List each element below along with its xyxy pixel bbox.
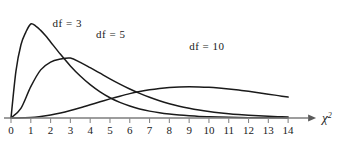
x-tick-label-3: 3 (68, 124, 74, 136)
x-tick-label-14: 14 (283, 124, 295, 136)
curve-df-5 (11, 58, 288, 118)
x-axis-label: χ2 (320, 110, 332, 125)
x-axis-ticks (11, 118, 288, 123)
x-tick-label-13: 13 (263, 124, 275, 136)
x-tick-label-8: 8 (167, 124, 173, 136)
curve-df-10 (11, 87, 288, 118)
chart-plot-area: 01234567891011121314 df = 3df = 5df = 10… (0, 0, 342, 147)
x-tick-label-10: 10 (203, 124, 215, 136)
x-tick-label-7: 7 (147, 124, 153, 136)
annotation-df-3: df = 3 (53, 17, 82, 29)
x-tick-label-4: 4 (87, 124, 93, 136)
x-tick-label-2: 2 (48, 124, 54, 136)
x-tick-label-5: 5 (107, 124, 113, 136)
annotation-df-5: df = 5 (96, 28, 125, 40)
x-axis-tick-labels: 01234567891011121314 (8, 124, 294, 136)
x-tick-label-11: 11 (223, 124, 234, 136)
x-tick-label-9: 9 (186, 124, 192, 136)
chi-square-distribution-chart: 01234567891011121314 df = 3df = 5df = 10… (0, 0, 342, 147)
curve-df-3 (11, 24, 288, 118)
x-tick-label-6: 6 (127, 124, 133, 136)
x-tick-label-1: 1 (28, 124, 34, 136)
annotation-df-10: df = 10 (189, 40, 224, 52)
x-axis-label-text: χ2 (320, 110, 332, 125)
x-tick-label-12: 12 (243, 124, 254, 136)
x-tick-label-0: 0 (8, 124, 14, 136)
axis-arrow-icon (308, 115, 316, 122)
curves-layer (11, 24, 288, 118)
series-annotations: df = 3df = 5df = 10 (53, 17, 225, 52)
